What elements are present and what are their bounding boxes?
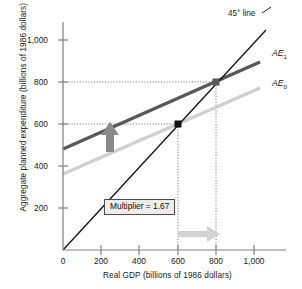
series-label-45-degree-line: 45° line <box>228 9 255 18</box>
x-tick-label-200: 200 <box>86 256 116 266</box>
series-line-45-degree <box>63 30 266 250</box>
chart-figure: 1,000 800 600 400 200 0 200 400 600 800 … <box>0 0 302 289</box>
x-tick-label-800: 800 <box>201 256 231 266</box>
x-tick-label-1000: 1,000 <box>239 256 269 266</box>
x-tick-label-0: 0 <box>48 256 78 266</box>
multiplier-annotation-box: Multiplier = 1.67 <box>104 199 175 215</box>
x-tick-label-600: 600 <box>163 256 193 266</box>
series-label-leaders <box>262 7 271 13</box>
series-label-ae1-subscript: 1 <box>283 53 286 60</box>
series-label-ae1-base: AE <box>272 48 283 58</box>
series-line-ae0 <box>63 88 260 174</box>
series-label-ae0-subscript: 0 <box>283 83 286 90</box>
equilibrium-marker-new <box>213 79 220 86</box>
series-label-ae1: AE1 <box>272 48 287 60</box>
x-axis-title: Real GDP (billions of 1986 dollars) <box>103 271 232 280</box>
gdp-increase-arrow-icon <box>178 226 220 242</box>
series-label-ae0: AE0 <box>272 78 287 90</box>
equilibrium-marker-initial <box>175 121 182 128</box>
y-axis-title: Aggregate planned expenditure (billions … <box>19 22 28 212</box>
series-label-ae0-base: AE <box>272 78 283 88</box>
series-line-ae1 <box>63 62 260 149</box>
x-tick-label-400: 400 <box>124 256 154 266</box>
leader-45-line <box>262 7 271 13</box>
